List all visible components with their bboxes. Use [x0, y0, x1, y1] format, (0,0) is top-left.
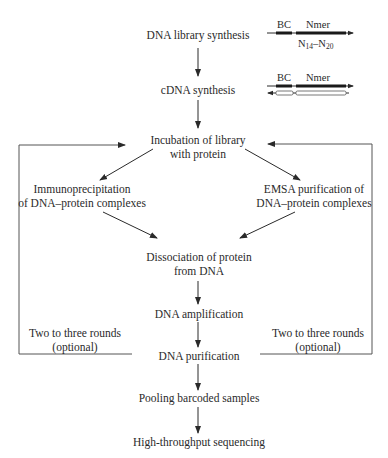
step-cdna-synthesis: cDNA synthesis — [161, 83, 235, 97]
flowchart-connectors — [0, 0, 388, 458]
step-amplification: DNA amplification — [155, 307, 243, 321]
arrow-ip-to-dissociation — [103, 212, 157, 238]
step-library-synthesis: DNA library synthesis — [147, 28, 250, 42]
step-incubation-line2: with protein — [170, 147, 226, 161]
step-incubation-line1: Incubation of library — [150, 133, 245, 147]
arrow-incubation-to-emsa — [245, 149, 300, 180]
step-emsa-line1: EMSA purification of — [264, 182, 364, 196]
cdna-bc-label: BC — [277, 72, 291, 84]
cdna-nmer-label: Nmer — [306, 72, 330, 84]
arrow-incubation-to-ip — [100, 149, 153, 180]
library-schematic — [267, 32, 353, 35]
loop-left-label-line2: (optional) — [52, 340, 97, 354]
loop-left-label-line1: Two to three rounds — [29, 326, 121, 340]
loop-right — [260, 144, 372, 354]
library-bc-label: BC — [277, 19, 291, 31]
step-purification: DNA purification — [159, 349, 240, 363]
step-dissociation-line1: Dissociation of protein — [146, 250, 251, 264]
step-dissociation-line2: from DNA — [174, 264, 224, 278]
step-sequencing: High-throughput sequencing — [133, 435, 265, 449]
arrow-emsa-to-dissociation — [240, 212, 295, 238]
step-pooling: Pooling barcoded samples — [139, 391, 260, 405]
library-nmer-label: Nmer — [306, 19, 330, 31]
loop-right-label-line2: (optional) — [295, 340, 340, 354]
step-emsa-line2: DNA–protein complexes — [256, 196, 371, 210]
loop-left — [19, 145, 132, 354]
step-ip-line2: of DNA–protein complexes — [18, 196, 146, 210]
library-length-range: N14–N20 — [298, 38, 333, 53]
step-ip-line1: Immunoprecipitation — [33, 182, 130, 196]
loop-right-label-line1: Two to three rounds — [272, 326, 364, 340]
cdna-schematic — [267, 85, 353, 96]
